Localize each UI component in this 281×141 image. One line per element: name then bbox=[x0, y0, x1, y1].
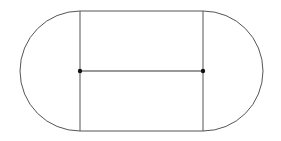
left-semicircle-arc bbox=[20, 11, 80, 131]
stadium-diagram bbox=[0, 0, 281, 141]
right-semicircle-arc bbox=[203, 11, 263, 131]
right-center-point bbox=[201, 69, 205, 73]
left-center-point bbox=[78, 69, 82, 73]
